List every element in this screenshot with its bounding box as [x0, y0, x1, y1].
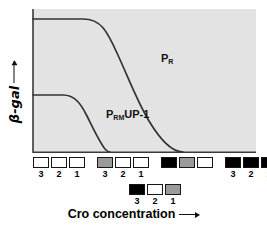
- operator-number-2: 2: [243, 169, 259, 179]
- operator-box-1: [261, 157, 267, 168]
- curve-prm-up1: [33, 95, 110, 152]
- operator-box-1: [197, 157, 213, 168]
- operator-group-1: 3 2 1: [97, 157, 149, 179]
- x-axis-label: Cro concentration: [0, 207, 267, 221]
- curve-label-pr: PR: [161, 53, 173, 64]
- operator-number-2: 2: [147, 196, 163, 206]
- y-axis-label-rotated: β-gal: [7, 61, 22, 123]
- operator-box-2: [179, 157, 195, 168]
- operator-box-row: [97, 157, 149, 168]
- operator-number-3: 3: [225, 169, 241, 179]
- operator-number-row: 3 2 1: [129, 196, 181, 206]
- curve-label-prm-up1: PRMUP-1: [106, 109, 149, 120]
- operator-number-1: 1: [69, 169, 85, 179]
- operator-number-3: 3: [97, 169, 113, 179]
- operator-number-1: 1: [165, 196, 181, 206]
- operator-box-3: [129, 184, 145, 195]
- operator-box-1: [69, 157, 85, 168]
- operator-box-1: [133, 157, 149, 168]
- operator-group-3: 3 2 1: [225, 157, 267, 179]
- operator-box-3: [97, 157, 113, 168]
- operator-number-row: 3 2 1: [97, 169, 149, 179]
- operator-number-3: 3: [129, 196, 145, 206]
- operator-number-1: 1: [133, 169, 149, 179]
- y-axis-label-text: β-gal: [7, 86, 22, 123]
- operator-box-2: [51, 157, 67, 168]
- operator-box-3: [161, 157, 177, 168]
- operator-box-3: [33, 157, 49, 168]
- operator-number-row: 3 2 1: [33, 169, 85, 179]
- operator-group-4: 3 2 1: [129, 184, 181, 206]
- operator-box-row: [129, 184, 181, 195]
- operator-box-row: [33, 157, 85, 168]
- operator-number-3: 3: [33, 169, 49, 179]
- plot-svg: [33, 9, 256, 153]
- operator-box-2: [115, 157, 131, 168]
- plot-area: PR PRMUP-1: [33, 9, 256, 153]
- operator-group-2: [161, 157, 213, 168]
- operator-box-1: [165, 184, 181, 195]
- operator-number-1: 1: [261, 169, 267, 179]
- operator-box-2: [147, 184, 163, 195]
- right-arrow-icon: [179, 214, 199, 215]
- figure-panel: β-gal PR PRMUP-1 3 2 1: [0, 0, 267, 228]
- operator-number-2: 2: [51, 169, 67, 179]
- operator-box-row: [161, 157, 213, 168]
- operator-number-2: 2: [115, 169, 131, 179]
- operator-number-row: 3 2 1: [225, 169, 267, 179]
- curve-pr: [33, 19, 183, 152]
- operator-group-0: 3 2 1: [33, 157, 85, 179]
- operator-box-row: [225, 157, 267, 168]
- operator-box-3: [225, 157, 241, 168]
- operator-box-2: [243, 157, 259, 168]
- y-axis-label: β-gal: [2, 38, 26, 146]
- x-axis-label-text: Cro concentration: [68, 207, 176, 221]
- up-arrow-icon: [14, 61, 15, 83]
